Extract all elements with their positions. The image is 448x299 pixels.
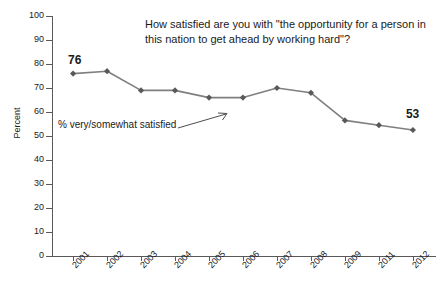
- y-tick-60: [46, 112, 52, 113]
- data-point-2005: [206, 95, 212, 101]
- x-tick-label-2002: 2002: [104, 249, 125, 270]
- y-tick-30: [46, 184, 52, 185]
- y-tick-label-80: 80: [14, 59, 44, 68]
- x-tick-label-2008: 2008: [308, 249, 329, 270]
- data-label-last: 53: [406, 107, 419, 121]
- data-point-2001: [70, 71, 76, 77]
- data-label-first: 76: [68, 53, 81, 67]
- y-axis-title: Percent: [12, 93, 22, 153]
- y-tick-80: [46, 64, 52, 65]
- data-point-2008: [308, 90, 314, 96]
- y-tick-70: [46, 88, 52, 89]
- y-tick-50: [46, 136, 52, 137]
- data-point-2007: [274, 85, 280, 91]
- x-tick-label-2001: 2001: [70, 249, 91, 270]
- x-tick-label-2005: 2005: [206, 249, 227, 270]
- x-tick-label-2006: 2006: [240, 249, 261, 270]
- chart-title: How satisfied are you with "the opportun…: [145, 17, 437, 47]
- data-point-2004: [172, 87, 178, 93]
- y-tick-label-100: 100: [14, 11, 44, 20]
- y-tick-20: [46, 208, 52, 209]
- y-tick-label-20: 20: [14, 203, 44, 212]
- x-tick-label-2009: 2009: [342, 249, 363, 270]
- data-point-2011: [376, 122, 382, 128]
- y-tick-label-10: 10: [14, 227, 44, 236]
- x-tick-label-2003: 2003: [138, 249, 159, 270]
- x-tick-label-2012: 2012: [410, 249, 431, 270]
- y-tick-label-70: 70: [14, 83, 44, 92]
- data-point-2009: [342, 117, 348, 123]
- y-tick-100: [46, 16, 52, 17]
- series-annotation-label: % very/somewhat satisfied: [58, 119, 176, 130]
- data-point-2012: [410, 127, 416, 133]
- data-point-2002: [104, 68, 110, 74]
- y-tick-40: [46, 160, 52, 161]
- annotation-arrow-icon: [178, 113, 227, 128]
- y-tick-10: [46, 232, 52, 233]
- x-tick-label-2011: 2011: [376, 249, 397, 270]
- data-point-2003: [138, 87, 144, 93]
- y-tick-label-40: 40: [14, 155, 44, 164]
- y-tick-label-50: 50: [14, 131, 44, 140]
- y-tick-90: [46, 40, 52, 41]
- line-chart: How satisfied are you with "the opportun…: [0, 0, 448, 299]
- x-tick-label-2007: 2007: [274, 249, 295, 270]
- y-tick-label-90: 90: [14, 35, 44, 44]
- y-tick-0: [46, 256, 52, 257]
- y-tick-label-30: 30: [14, 179, 44, 188]
- y-axis-line: [52, 16, 53, 257]
- y-tick-label-60: 60: [14, 107, 44, 116]
- data-point-2006: [240, 95, 246, 101]
- y-tick-label-0: 0: [14, 251, 44, 260]
- x-tick-label-2004: 2004: [172, 249, 193, 270]
